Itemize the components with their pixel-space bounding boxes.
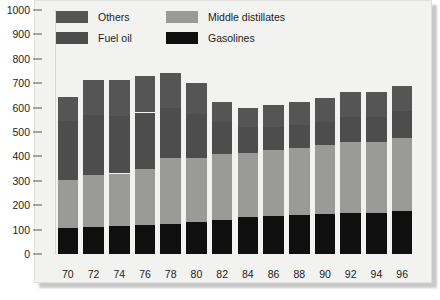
bar-segment[interactable] (83, 227, 104, 254)
y-axis-tick-label: 800 (0, 53, 30, 64)
bar-stack[interactable] (186, 10, 207, 254)
bar-segment[interactable] (83, 175, 104, 227)
bar-segment[interactable] (289, 215, 310, 254)
bar-stack[interactable] (289, 10, 310, 254)
bar-stack[interactable] (340, 10, 361, 254)
bar-segment[interactable] (238, 108, 259, 128)
y-axis-tick-mark (33, 58, 42, 59)
bar-segment[interactable] (289, 148, 310, 215)
bar-segment[interactable] (392, 138, 413, 211)
bar-stack[interactable] (212, 10, 233, 254)
bar-segment[interactable] (58, 228, 79, 254)
x-axis-tick-label: 78 (165, 268, 177, 280)
bar-segment[interactable] (58, 97, 79, 121)
bar-segment[interactable] (160, 73, 181, 107)
bar-segment[interactable] (289, 125, 310, 148)
bar-segment[interactable] (366, 142, 387, 213)
bar-segment[interactable] (392, 86, 413, 112)
y-axis-tick-mark (33, 156, 42, 157)
bar-stack[interactable] (83, 10, 104, 254)
bar-segment[interactable] (315, 122, 336, 145)
bar-stack[interactable] (160, 10, 181, 254)
y-axis-tick-label: 200 (0, 200, 30, 211)
x-axis-tick-label: 72 (88, 268, 100, 280)
x-axis-tick-label: 86 (268, 268, 280, 280)
bar-segment[interactable] (160, 224, 181, 255)
bar-segment[interactable] (186, 83, 207, 114)
bar-segment[interactable] (263, 127, 284, 150)
bar-segment[interactable] (58, 180, 79, 229)
bar-segment[interactable] (160, 158, 181, 224)
y-axis-tick-label: 400 (0, 151, 30, 162)
bar-segment[interactable] (109, 174, 130, 226)
bar-stack[interactable] (392, 10, 413, 254)
bar-segment[interactable] (392, 111, 413, 138)
bar-segment[interactable] (366, 92, 387, 118)
bar-stack[interactable] (58, 10, 79, 254)
bar-stack[interactable] (366, 10, 387, 254)
bar-segment[interactable] (186, 158, 207, 223)
bar-segment[interactable] (186, 114, 207, 158)
x-axis-tick-label: 90 (319, 268, 331, 280)
y-axis-tick-mark (33, 254, 42, 255)
bar-segment[interactable] (212, 102, 233, 123)
y-axis-tick-label: 0 (0, 249, 30, 260)
bar-stack[interactable] (315, 10, 336, 254)
bar-segment[interactable] (212, 220, 233, 254)
bar-segment[interactable] (238, 127, 259, 153)
bar-segment[interactable] (340, 92, 361, 118)
bar-segment[interactable] (340, 213, 361, 254)
bar-segment[interactable] (135, 169, 156, 225)
bar-segment[interactable] (83, 80, 104, 115)
y-axis-tick-mark (33, 132, 42, 133)
y-axis-tick-label: 300 (0, 175, 30, 186)
bar-segment[interactable] (135, 113, 156, 169)
plot-area: 7072747678808284868890929496 (55, 10, 415, 254)
bar-segment[interactable] (315, 98, 336, 122)
bar-segment[interactable] (135, 76, 156, 113)
bar-segment[interactable] (212, 122, 233, 154)
y-axis-tick-label: 500 (0, 127, 30, 138)
y-axis-tick-mark (33, 205, 42, 206)
bar-segment[interactable] (315, 214, 336, 254)
bar-segment[interactable] (238, 217, 259, 254)
y-axis-tick-mark (33, 83, 42, 84)
bar-segment[interactable] (366, 213, 387, 254)
bar-segment[interactable] (340, 142, 361, 213)
bar-segment[interactable] (212, 154, 233, 220)
x-axis-tick-label: 88 (293, 268, 305, 280)
bar-segment[interactable] (392, 211, 413, 254)
bar-segment[interactable] (366, 117, 387, 141)
bar-segment[interactable] (289, 102, 310, 125)
bar-segment[interactable] (263, 150, 284, 216)
y-axis-tick-mark (33, 10, 42, 11)
x-axis-tick-label: 84 (242, 268, 254, 280)
x-axis-tick-label: 74 (113, 268, 125, 280)
bar-segment[interactable] (58, 121, 79, 180)
bar-segment[interactable] (109, 226, 130, 254)
y-axis-tick-mark (33, 107, 42, 108)
bar-stack[interactable] (263, 10, 284, 254)
x-axis-tick-label: 96 (396, 268, 408, 280)
bar-stack[interactable] (135, 10, 156, 254)
bar-segment[interactable] (109, 80, 130, 117)
y-axis-tick-mark (33, 34, 42, 35)
bar-segment[interactable] (160, 108, 181, 158)
bar-stack[interactable] (238, 10, 259, 254)
x-axis-tick-label: 92 (345, 268, 357, 280)
bar-segment[interactable] (340, 117, 361, 141)
x-axis-tick-label: 94 (371, 268, 383, 280)
bar-segment[interactable] (263, 216, 284, 254)
x-axis-tick-label: 76 (139, 268, 151, 280)
bar-segment[interactable] (315, 145, 336, 213)
bar-segment[interactable] (238, 153, 259, 218)
y-axis-tick-mark (33, 180, 42, 181)
bar-segment[interactable] (83, 115, 104, 175)
bar-segment[interactable] (263, 105, 284, 127)
bar-stack[interactable] (109, 10, 130, 254)
bar-segment[interactable] (186, 222, 207, 254)
y-axis-tick-label: 600 (0, 102, 30, 113)
bar-segment[interactable] (109, 116, 130, 173)
x-axis-tick-label: 82 (216, 268, 228, 280)
bar-segment[interactable] (135, 225, 156, 254)
